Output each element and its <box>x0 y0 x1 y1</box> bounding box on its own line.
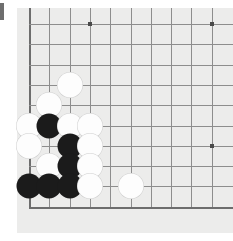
left-edge-marker <box>0 3 4 20</box>
white-stone[interactable] <box>17 133 42 158</box>
stone-layer[interactable] <box>17 8 233 233</box>
white-stone[interactable] <box>118 174 143 199</box>
white-stone[interactable] <box>77 174 102 199</box>
white-stone[interactable] <box>57 72 82 97</box>
go-board-screenshot <box>0 0 233 241</box>
